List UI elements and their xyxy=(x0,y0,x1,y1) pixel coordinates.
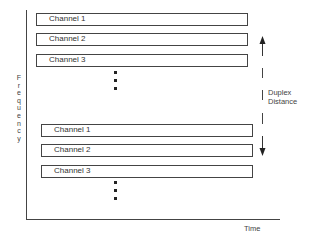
x-axis-label: Time xyxy=(244,224,260,233)
ellipsis-dot xyxy=(114,71,117,74)
x-axis xyxy=(26,219,280,220)
dashed-line-segment xyxy=(262,90,263,100)
lower-channel-2-box: Channel 2 xyxy=(41,144,253,157)
dashed-line-segment xyxy=(262,113,263,124)
channel-label: Channel 1 xyxy=(54,124,90,136)
channel-label: Channel 1 xyxy=(49,13,85,25)
lower-channel-3-box: Channel 3 xyxy=(41,165,253,178)
upper-channel-2-box: Channel 2 xyxy=(36,33,248,46)
channel-label: Channel 3 xyxy=(54,165,90,177)
ellipsis-dot xyxy=(114,87,117,90)
ellipsis-dot xyxy=(114,79,117,82)
dashed-line-segment xyxy=(262,68,263,78)
channel-label: Channel 2 xyxy=(49,33,85,45)
duplex-label-line2: Distance xyxy=(268,97,297,106)
duplex-label-line1: Duplex xyxy=(268,88,297,97)
y-axis-label: Frequency xyxy=(16,74,22,142)
channel-label: Channel 3 xyxy=(49,54,85,66)
upper-channel-3-box: Channel 3 xyxy=(36,54,248,67)
ellipsis-dot xyxy=(114,197,117,200)
arrow-up-icon xyxy=(258,36,267,56)
duplex-distance-label: Duplex Distance xyxy=(268,88,297,106)
y-axis xyxy=(26,10,27,219)
channel-label: Channel 2 xyxy=(54,144,90,156)
upper-channel-1-box: Channel 1 xyxy=(36,13,248,26)
ellipsis-dot xyxy=(114,189,117,192)
arrow-down-icon xyxy=(258,136,267,156)
ellipsis-dot xyxy=(114,181,117,184)
lower-channel-1-box: Channel 1 xyxy=(41,124,253,137)
